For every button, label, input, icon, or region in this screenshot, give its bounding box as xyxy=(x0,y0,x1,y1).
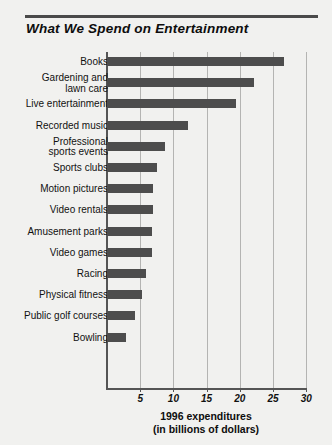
bar xyxy=(107,57,284,66)
x-tick xyxy=(173,388,174,392)
category-label: Amusement parks xyxy=(4,227,108,238)
x-tick xyxy=(140,388,141,392)
bar xyxy=(107,99,236,108)
category-label: Bowling xyxy=(4,333,108,344)
x-tick xyxy=(273,388,274,392)
category-label: Physical fitness xyxy=(4,290,108,301)
category-label: Public golf courses xyxy=(4,311,108,322)
plot-area: BooksGardening and lawn careLive enterta… xyxy=(0,52,332,392)
bar xyxy=(107,121,188,130)
category-label: Sports clubs xyxy=(4,163,108,174)
chart-figure: What We Spend on Entertainment BooksGard… xyxy=(0,0,332,445)
bar xyxy=(107,248,152,257)
x-tick xyxy=(240,388,241,392)
category-label: Video rentals xyxy=(4,205,108,216)
x-tick-label-25: 25 xyxy=(261,393,285,404)
header-rule xyxy=(25,15,318,18)
bar xyxy=(107,311,135,320)
bar xyxy=(107,163,157,172)
bar-row: Professional sports events xyxy=(0,142,332,163)
bar-row: Bowling xyxy=(0,333,332,354)
x-tick-label-10: 10 xyxy=(161,393,185,404)
category-label: Books xyxy=(4,57,108,68)
x-tick xyxy=(306,388,307,392)
bar-row: Racing xyxy=(0,269,332,290)
bar-row: Sports clubs xyxy=(0,163,332,184)
bar-row: Live entertainment xyxy=(0,99,332,120)
x-axis-label-line2: (in billions of dollars) xyxy=(106,423,306,436)
bar xyxy=(107,227,152,236)
category-label: Professional sports events xyxy=(4,137,108,158)
x-tick xyxy=(207,388,208,392)
category-label: Racing xyxy=(4,269,108,280)
x-axis-label: 1996 expenditures (in billions of dollar… xyxy=(106,410,306,436)
page-title: What We Spend on Entertainment xyxy=(26,21,249,36)
x-axis: 51015202530 1996 expenditures (in billio… xyxy=(0,388,332,445)
bar xyxy=(107,205,153,214)
x-axis-label-line1: 1996 expenditures xyxy=(106,410,306,423)
bar xyxy=(107,142,165,151)
bar-row: Video games xyxy=(0,248,332,269)
bar-row: Motion pictures xyxy=(0,184,332,205)
category-label: Live entertainment xyxy=(4,99,108,110)
bar-row: Public golf courses xyxy=(0,311,332,332)
bar xyxy=(107,269,146,278)
bar-row: Gardening and lawn care xyxy=(0,78,332,99)
x-tick-label-30: 30 xyxy=(294,393,318,404)
bar xyxy=(107,184,153,193)
category-label: Motion pictures xyxy=(4,184,108,195)
bar xyxy=(107,290,142,299)
x-tick-label-5: 5 xyxy=(128,393,152,404)
bar-row: Physical fitness xyxy=(0,290,332,311)
bar xyxy=(107,78,254,87)
category-label: Video games xyxy=(4,248,108,259)
category-label: Gardening and lawn care xyxy=(4,73,108,94)
bar-row: Amusement parks xyxy=(0,227,332,248)
bar xyxy=(107,333,126,342)
x-tick-label-20: 20 xyxy=(228,393,252,404)
bar-row: Video rentals xyxy=(0,205,332,226)
x-tick-label-15: 15 xyxy=(195,393,219,404)
category-label: Recorded music xyxy=(4,121,108,132)
